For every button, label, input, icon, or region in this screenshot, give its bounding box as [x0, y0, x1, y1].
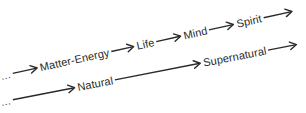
ellipsis-continuation: ... — [0, 68, 12, 83]
term-spirit: Spirit — [235, 12, 263, 30]
arrow-icon — [11, 82, 76, 106]
arrow-icon — [262, 5, 294, 23]
arrow-icon — [114, 57, 203, 86]
term-life: Life — [135, 36, 156, 53]
ellipsis-continuation: ... — [0, 94, 12, 109]
term-natural: Natural — [76, 74, 114, 94]
term-mind: Mind — [182, 24, 208, 42]
arrow-icon — [208, 18, 236, 35]
term-matter-energy: Matter-Energy — [38, 46, 110, 74]
arrow-icon — [11, 62, 39, 79]
arrow-icon — [267, 38, 299, 56]
arrow-icon — [110, 41, 136, 58]
diagram-canvas: ...Matter-EnergyLifeMindSpirit ...Natura… — [0, 0, 306, 113]
term-supernatural: Supernatural — [202, 44, 267, 69]
arrow-icon — [155, 30, 183, 47]
